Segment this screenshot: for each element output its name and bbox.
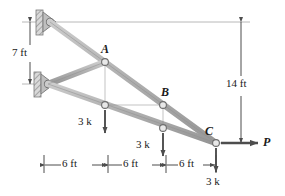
joint-label-a: A (101, 43, 109, 55)
dimension-label-6ft-2: 6 ft (123, 158, 138, 169)
joint-pin-d (102, 102, 109, 109)
joint-pin-a (102, 59, 109, 66)
joint-pin-c (213, 140, 220, 147)
dimension-label-6ft-1: 6 ft (62, 158, 77, 169)
truss-diagram: A B C P 3 k 3 k 3 k 7 ft 14 ft 6 ft 6 ft… (0, 0, 285, 196)
joint-pin-b (160, 102, 167, 109)
truss-drawing-canvas (0, 0, 285, 196)
load-label-c-vertical: 3 k (206, 176, 220, 187)
load-label-p: P (263, 136, 270, 148)
joint-pin-e (160, 125, 167, 132)
dimension-label-6ft-3: 6 ft (179, 158, 194, 169)
dimension-label-7ft: 7 ft (12, 47, 27, 58)
dimension-label-14ft: 14 ft (226, 78, 246, 89)
joint-label-c: C (205, 125, 213, 137)
joint-label-b: B (161, 86, 169, 98)
load-label-d: 3 k (78, 116, 92, 127)
load-label-e: 3 k (136, 139, 150, 150)
